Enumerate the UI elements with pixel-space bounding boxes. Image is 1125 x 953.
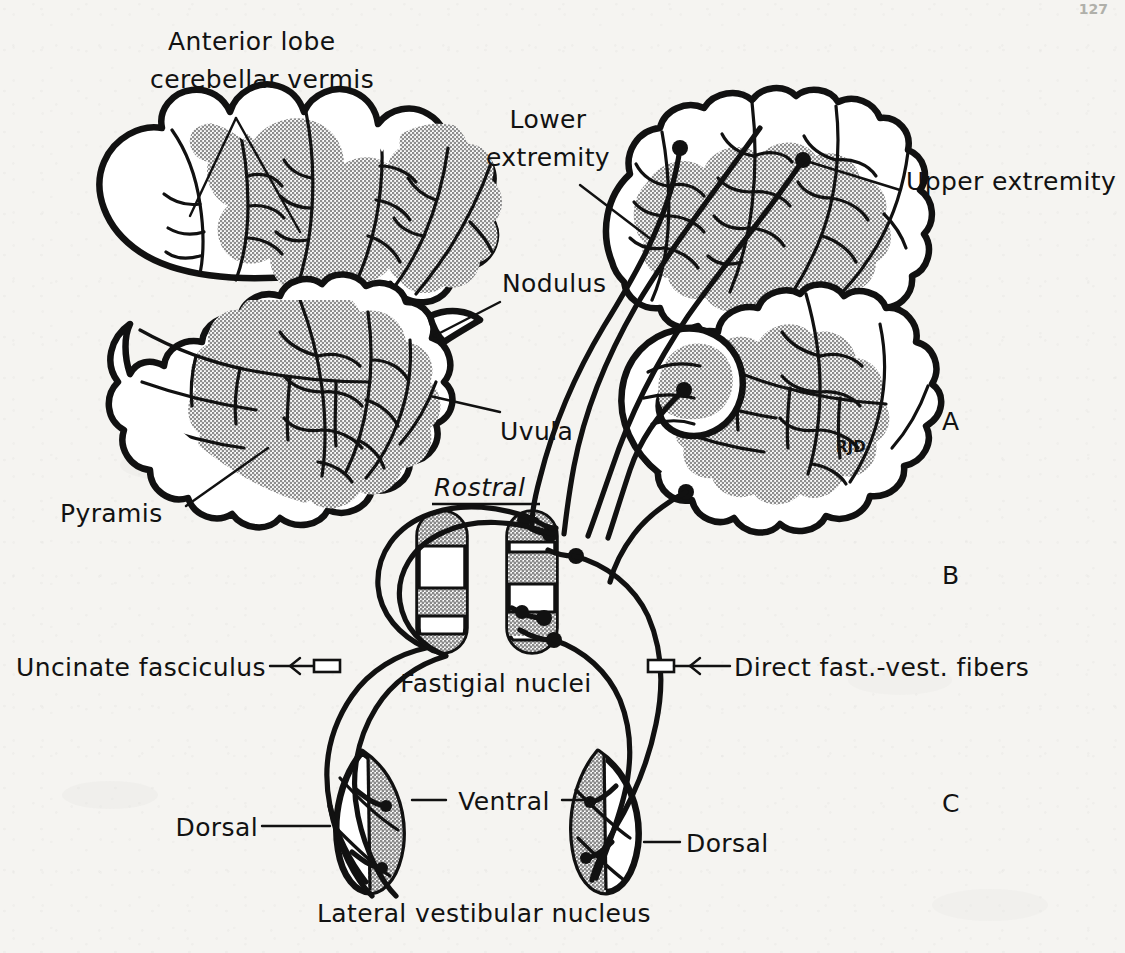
label-lower-extremity-line1: Lower bbox=[510, 105, 587, 134]
label-upper-extremity: Upper extremity bbox=[906, 167, 1116, 196]
label-lateral-vestibular-nucleus: Lateral vestibular nucleus bbox=[317, 899, 651, 928]
label-ventral: Ventral bbox=[458, 787, 550, 816]
label-anterior-lobe-line1: Anterior lobe bbox=[168, 27, 336, 56]
uncinate-marker-box bbox=[314, 660, 340, 672]
fiber-lower-lobe-b bbox=[610, 492, 686, 582]
page-number: 127 bbox=[1079, 1, 1108, 17]
panel-label-b: B bbox=[942, 561, 959, 590]
label-dorsal-right: Dorsal bbox=[686, 829, 769, 858]
label-rostral: Rostral bbox=[434, 473, 526, 502]
label-anterior-lobe-line2: cerebellar vermis bbox=[150, 65, 374, 94]
label-dorsal-left: Dorsal bbox=[175, 813, 258, 842]
left-upper-lateral-shading bbox=[383, 117, 502, 293]
label-lower-extremity-line2: extremity bbox=[486, 143, 610, 172]
label-uncinate-fasciculus: Uncinate fasciculus bbox=[16, 653, 266, 682]
label-fastigial-nuclei: Fastigial nuclei bbox=[400, 669, 591, 698]
artist-signature: RJD bbox=[836, 438, 866, 456]
panel-label-a: A bbox=[942, 407, 959, 436]
lateral-vestibular-nucleus-left bbox=[336, 748, 412, 898]
label-nodulus: Nodulus bbox=[502, 269, 606, 298]
anatomical-figure: 127 bbox=[0, 0, 1125, 953]
figure-page: 127 bbox=[0, 0, 1125, 953]
direct-marker-box bbox=[648, 660, 674, 672]
label-direct-fibers: Direct fast.-vest. fibers bbox=[734, 653, 1029, 682]
label-pyramis: Pyramis bbox=[60, 499, 163, 528]
rostral-marker: Rostral bbox=[432, 473, 540, 504]
panel-a-right-cerebellum: RJD bbox=[606, 88, 941, 532]
panel-label-c: C bbox=[942, 789, 959, 818]
label-uvula: Uvula bbox=[500, 417, 573, 446]
panel-a-left-cerebellum bbox=[100, 84, 503, 527]
